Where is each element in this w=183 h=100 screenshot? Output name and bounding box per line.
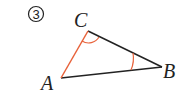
side-ab xyxy=(61,67,162,78)
problem-number-badge: 3 xyxy=(29,7,44,22)
vertex-label-a: A xyxy=(39,72,54,94)
vertex-label-c: C xyxy=(74,9,88,31)
side-ac-highlighted xyxy=(61,31,88,78)
triangle-diagram: 3 C A B xyxy=(0,0,183,100)
angle-mark-b xyxy=(131,53,133,70)
problem-number: 3 xyxy=(32,7,39,22)
side-cb xyxy=(88,31,162,67)
vertex-label-b: B xyxy=(163,60,175,82)
